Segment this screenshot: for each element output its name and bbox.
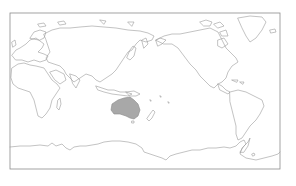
new-guinea-coastline [126, 91, 140, 96]
antarctica-coastline [10, 140, 280, 160]
kamchatka-coastline [142, 38, 148, 48]
new-zealand-coastline [147, 110, 155, 121]
central-america-coastline [218, 84, 230, 94]
hudson-bay-coastline [218, 38, 228, 48]
alaska-coastline [156, 38, 166, 46]
indonesia-coastline [96, 86, 132, 96]
scandinavia-coastline [30, 30, 46, 40]
map-canvas [0, 0, 296, 186]
arabia-coastline [50, 70, 66, 84]
coastlines [10, 16, 280, 160]
greenland-coastline [238, 16, 266, 42]
australia-landmass [111, 97, 140, 119]
pacific-islands [150, 96, 169, 103]
uk-coastline [12, 40, 16, 47]
arctic-islands [38, 20, 134, 27]
europe-coastline [12, 38, 48, 62]
japan-coastline [127, 46, 136, 60]
antarctic-peninsula-coastline [240, 138, 250, 152]
canadian-archipelago [200, 20, 228, 36]
madagascar-coastline [57, 98, 61, 110]
map-frame [10, 13, 280, 169]
caribbean-islands [232, 80, 244, 84]
south-america-coastline [230, 90, 264, 140]
iceland-coastline [270, 29, 276, 33]
world-map [0, 0, 296, 186]
tasmania-coastline [132, 121, 134, 123]
asia-coastline [44, 26, 154, 82]
north-america-coastline [156, 28, 238, 88]
ross-ice-shelf-island [252, 153, 255, 156]
